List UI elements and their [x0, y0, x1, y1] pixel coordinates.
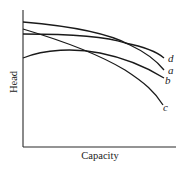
y-axis-label: Head	[8, 70, 19, 93]
x-axis-label: Capacity	[81, 150, 119, 161]
curve-a	[23, 22, 164, 70]
label-c: c	[163, 101, 168, 113]
label-d: d	[168, 52, 174, 64]
curve-c	[23, 29, 163, 105]
label-b: b	[165, 74, 171, 86]
pump-curves-chart: d a b c Capacity Head	[0, 0, 182, 169]
